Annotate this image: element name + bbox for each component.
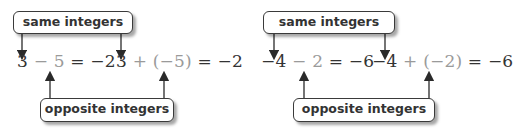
result: = −2: [192, 51, 243, 71]
same-integers-text: same integers: [279, 14, 379, 29]
same-integers-label: same integers: [13, 11, 133, 34]
addend: (−2): [423, 51, 462, 71]
minus-operator: −: [28, 51, 54, 71]
result: = −6: [462, 51, 513, 71]
addend: (−5): [153, 51, 192, 71]
plus-operator: +: [397, 51, 423, 71]
first-term: −4: [261, 51, 286, 71]
subtraction-equation: 3 − 5 = −2: [17, 51, 116, 71]
example-panel-2: same integers −4 − 2 = −6 −4 + (−2) = −6…: [244, 0, 489, 130]
result: = −2: [65, 51, 116, 71]
subtrahend: 2: [312, 51, 323, 71]
first-term: −4: [372, 51, 397, 71]
first-term: 3: [17, 51, 28, 71]
same-integers-text: same integers: [23, 14, 123, 29]
addition-equation: 3 + (−5) = −2: [116, 51, 243, 71]
subtraction-equation: −4 − 2 = −6: [261, 51, 374, 71]
opposite-integers-text: opposite integers: [302, 101, 426, 116]
result: = −6: [323, 51, 374, 71]
opposite-integers-label: opposite integers: [293, 98, 435, 122]
plus-operator: +: [127, 51, 153, 71]
same-integers-label: same integers: [263, 11, 395, 34]
opposite-integers-text: opposite integers: [45, 101, 169, 116]
example-panel-1: same integers 3 − 5 = −2 3 + (−5) = −2 o…: [0, 0, 245, 130]
minus-operator: −: [286, 51, 312, 71]
first-term: 3: [116, 51, 127, 71]
subtrahend: 5: [54, 51, 65, 71]
addition-equation: −4 + (−2) = −6: [372, 51, 513, 71]
opposite-integers-label: opposite integers: [40, 98, 174, 122]
